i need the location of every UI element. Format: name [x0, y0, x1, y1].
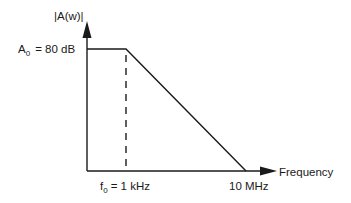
- bode-plot-diagram: |A(w)| A0= 80 dB Frequency f0= 1 kHz 10 …: [0, 0, 351, 203]
- corner-frequency-label: f0= 1 kHz: [100, 180, 150, 195]
- gain-value: = 80 dB: [35, 43, 75, 55]
- magnitude-response-curve: [87, 49, 246, 171]
- corner-frequency-subscript: 0: [103, 186, 108, 195]
- x-axis-label: Frequency: [279, 166, 334, 178]
- unity-gain-frequency-label: 10 MHz: [229, 180, 269, 192]
- x-axis-arrow-icon: [260, 167, 277, 176]
- gain-subscript: 0: [26, 49, 31, 58]
- y-axis-label: |A(w)|: [54, 10, 84, 22]
- y-axis-arrow-icon: [83, 21, 92, 38]
- gain-label: A0= 80 dB: [18, 43, 75, 58]
- corner-frequency-value: = 1 kHz: [111, 180, 151, 192]
